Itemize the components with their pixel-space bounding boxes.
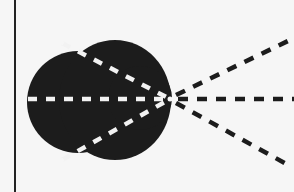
ray-lower-outer bbox=[176, 103, 290, 166]
outer-dashed-rays bbox=[176, 40, 294, 166]
ray-upper-outer bbox=[176, 40, 290, 95]
ray-diagram bbox=[0, 0, 294, 192]
focal-point bbox=[168, 97, 173, 102]
